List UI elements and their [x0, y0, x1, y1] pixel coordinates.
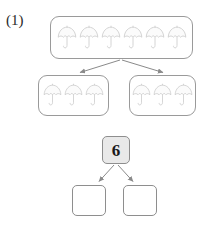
- umbrella-group-whole: [50, 16, 193, 59]
- umbrella-group-left: [38, 75, 109, 116]
- part-number-box-right[interactable]: [123, 185, 157, 216]
- umbrella-icon: [131, 83, 152, 108]
- umbrella-icon: [42, 83, 63, 108]
- part-number-box-left[interactable]: [72, 185, 106, 216]
- umbrella-icon: [144, 25, 166, 51]
- umbrella-icon: [100, 25, 122, 51]
- umbrella-icon: [152, 83, 173, 108]
- arrow-whole-to-left-group: [80, 60, 120, 73]
- whole-number-value: 6: [112, 142, 121, 159]
- umbrella-row-whole: [51, 17, 192, 58]
- umbrella-icon: [122, 25, 144, 51]
- umbrella-icon: [166, 25, 188, 51]
- umbrella-icon: [78, 25, 100, 51]
- worksheet-page: (1): [0, 0, 210, 226]
- umbrella-group-right: [129, 75, 196, 116]
- whole-number-box: 6: [102, 136, 130, 164]
- umbrella-icon: [84, 83, 105, 108]
- arrow-six-to-right-box: [118, 165, 133, 182]
- umbrella-icon: [56, 25, 78, 51]
- problem-number-label: (1): [6, 12, 24, 29]
- umbrella-icon: [173, 83, 194, 108]
- arrow-six-to-left-box: [99, 165, 114, 182]
- umbrella-row-right: [130, 76, 195, 115]
- arrow-whole-to-right-group: [122, 60, 163, 73]
- umbrella-row-left: [39, 76, 108, 115]
- umbrella-icon: [63, 83, 84, 108]
